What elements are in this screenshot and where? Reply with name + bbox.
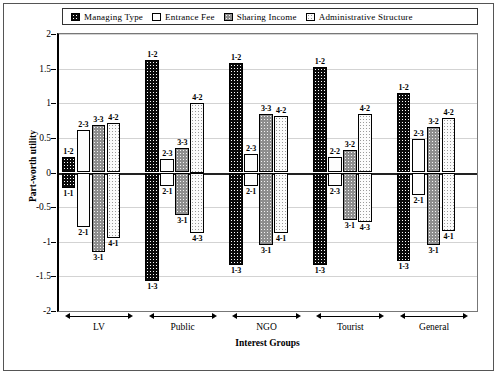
bar-segment-negative (190, 173, 204, 234)
bar-segment-positive (358, 114, 372, 173)
bar-value-label-bottom: 1-3 (147, 282, 157, 291)
span-line (69, 316, 129, 317)
y-axis: Part-worth utility 21.510.50-0.5-1-1.5-2 (20, 33, 56, 312)
gridline (59, 34, 477, 35)
bar-segment-negative (343, 173, 357, 220)
bar-value-label-top: 1-2 (147, 50, 157, 59)
y-tick-label: -2 (43, 306, 51, 316)
plot-area: 1-21-12-32-13-33-14-24-11-21-32-32-13-33… (57, 33, 478, 312)
bar-value-label-top: 4-2 (276, 106, 286, 115)
bar-segment-positive (107, 123, 121, 173)
x-group-general: General (399, 312, 469, 332)
arrow-right-icon (296, 313, 301, 319)
bar-value-label-bottom: 3-1 (93, 253, 103, 262)
bar-value-label-bottom: 4-1 (444, 232, 454, 241)
bar-segment-positive (274, 116, 288, 173)
bar-segment-positive (92, 125, 106, 172)
bar-segment-negative (313, 173, 327, 265)
bar-value-label-bottom: 2-1 (162, 187, 172, 196)
legend-swatch-icon (71, 13, 80, 21)
arrow-right-icon (463, 313, 468, 319)
bar-value-label-bottom: 3-1 (261, 246, 271, 255)
bar-value-label-top: 3-3 (261, 104, 271, 113)
x-group-span (64, 312, 134, 321)
y-tick-mark (51, 311, 56, 312)
chart-figure: Managing TypeEntrance FeeSharing IncomeA… (0, 0, 499, 376)
y-tick-label: 0.5 (39, 133, 51, 143)
legend-swatch-icon (152, 13, 161, 21)
bar-value-label-top: 4-2 (108, 113, 118, 122)
bar-value-label-top: 4-2 (444, 108, 454, 117)
bar-segment-negative (358, 173, 372, 223)
bar-segment-negative (442, 173, 456, 232)
legend-item-label: Administrative Structure (319, 12, 413, 22)
x-group-span (148, 312, 218, 321)
bar-value-label-bottom: 3-1 (177, 216, 187, 225)
bar-segment-positive (145, 60, 159, 173)
y-tick-label: -0.5 (36, 202, 51, 212)
bar-segment-positive (328, 157, 342, 172)
y-tick-label: -1.5 (36, 271, 51, 281)
bar-value-label-top: 2-2 (330, 147, 340, 156)
bar-value-label-top: 3-3 (93, 115, 103, 124)
bar-value-label-top: 1-2 (231, 53, 241, 62)
bar-segment-positive (442, 118, 456, 172)
gridline (59, 69, 477, 70)
bar-segment-negative (145, 173, 159, 282)
legend-swatch-icon (306, 13, 315, 21)
bar-value-label-top: 1-2 (63, 147, 73, 156)
bar-segment-negative (160, 173, 174, 187)
bar-segment-negative (259, 173, 273, 246)
arrow-right-icon (212, 313, 217, 319)
y-tick-label: 1.5 (39, 64, 51, 74)
bar-segment-positive (412, 139, 426, 172)
x-group-tourist: Tourist (315, 312, 385, 332)
bar-value-label-bottom: 2-1 (246, 187, 256, 196)
bar-value-label-bottom: 2-1 (78, 228, 88, 237)
x-group-ngo: NGO (231, 312, 301, 332)
bar-segment-negative (62, 173, 76, 188)
y-tick-mark (51, 173, 56, 174)
y-tick-mark (51, 34, 56, 35)
legend-swatch-icon (224, 13, 233, 21)
bar-value-label-top: 3-2 (429, 117, 439, 126)
x-group-label: General (399, 322, 469, 332)
x-group-lv: LV (64, 312, 134, 332)
legend-item-label: Managing Type (84, 12, 143, 22)
bar-segment-positive (190, 103, 204, 172)
bar-value-label-bottom: 3-1 (429, 246, 439, 255)
y-tick-mark (51, 138, 56, 139)
bar-segment-positive (77, 130, 91, 173)
legend-item-2: Sharing Income (224, 12, 297, 22)
bar-value-label-top: 2-3 (78, 120, 88, 129)
bar-segment-negative (175, 173, 189, 216)
y-tick-mark (51, 69, 56, 70)
arrow-right-icon (379, 313, 384, 319)
bar-segment-positive (259, 114, 273, 172)
bar-value-label-bottom: 4-3 (360, 223, 370, 232)
bar-segment-positive (244, 154, 258, 173)
bar-value-label-bottom: 2-3 (330, 187, 340, 196)
bar-value-label-top: 2-3 (246, 144, 256, 153)
legend-item-label: Sharing Income (237, 12, 297, 22)
bar-value-label-top: 1-2 (399, 83, 409, 92)
bar-value-label-bottom: 1-3 (399, 262, 409, 271)
x-group-label: Tourist (315, 322, 385, 332)
span-line (320, 316, 380, 317)
bar-segment-negative (107, 173, 121, 239)
bar-value-label-bottom: 1-3 (315, 266, 325, 275)
bar-segment-positive (229, 63, 243, 172)
bar-segment-positive (160, 159, 174, 173)
bar-value-label-top: 4-2 (192, 93, 202, 102)
bar-segment-positive (397, 93, 411, 173)
bar-value-label-top: 2-3 (414, 129, 424, 138)
y-tick-mark (51, 242, 56, 243)
x-group-label: Public (148, 322, 218, 332)
gridline (59, 276, 477, 277)
bar-segment-negative (244, 173, 258, 187)
y-tick-mark (51, 103, 56, 104)
bar-value-label-bottom: 4-1 (108, 239, 118, 248)
x-group-public: Public (148, 312, 218, 332)
arrow-right-icon (128, 313, 133, 319)
y-tick-mark (51, 207, 56, 208)
